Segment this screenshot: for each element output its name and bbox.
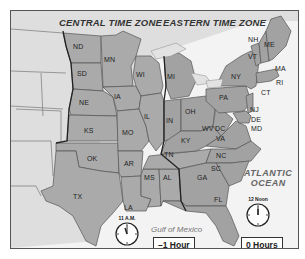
state-label-wi: WI xyxy=(136,71,145,78)
state-label-ma: MA xyxy=(275,65,286,72)
atlantic-ocean-label: ATLANTIC OCEAN xyxy=(244,168,292,189)
state-label-oh: OH xyxy=(185,108,196,115)
state-label-ne: NE xyxy=(79,99,89,106)
state-label-pa: PA xyxy=(219,94,228,101)
state-label-nd: ND xyxy=(73,43,83,50)
state-label-ks: KS xyxy=(84,127,94,134)
state-label-la: LA xyxy=(124,204,133,211)
state-label-tn: TN xyxy=(164,151,174,158)
central-clock: 11 A.M. xyxy=(114,216,140,249)
state-label-ky: KY xyxy=(181,137,191,144)
eastern-zone-title: EASTERN TIME ZONE xyxy=(163,17,266,28)
eastern-clock-label: 12 Noon xyxy=(245,197,271,202)
clock-icon xyxy=(115,222,139,246)
state-label-nh: NH xyxy=(248,36,258,43)
state-label-ms: MS xyxy=(144,174,155,181)
clock-icon xyxy=(246,203,270,227)
state-label-il: IL xyxy=(144,113,150,120)
state-label-ok: OK xyxy=(87,155,97,162)
time-zone-map: CENTRAL TIME ZONE EASTERN TIME ZONE ND S… xyxy=(10,10,299,249)
state-label-wv: WV xyxy=(202,125,213,132)
state-label-ar: AR xyxy=(124,160,134,167)
state-label-me: ME xyxy=(264,41,275,48)
state-label-in: IN xyxy=(166,117,173,124)
state-label-sc: SC xyxy=(211,165,221,172)
eastern-clock: 12 Noon xyxy=(245,197,271,231)
central-offset-box: –1 Hour xyxy=(153,237,195,249)
state-label-nj: NJ xyxy=(250,106,259,113)
state-label-mo: MO xyxy=(122,129,133,136)
state-label-md: MD xyxy=(251,125,262,132)
state-label-ga: GA xyxy=(197,174,207,181)
state-label-nc: NC xyxy=(216,152,226,159)
gulf-of-mexico-label: Gulf of Mexico xyxy=(151,225,202,234)
state-label-ri: RI xyxy=(276,79,283,86)
state-label-sd: SD xyxy=(77,70,87,77)
state-label-dc: DC xyxy=(215,125,225,132)
state-label-al: AL xyxy=(163,174,172,181)
state-label-ct: CT xyxy=(261,89,271,96)
state-label-mn: MN xyxy=(104,56,115,63)
central-clock-label: 11 A.M. xyxy=(114,216,140,221)
state-label-de: DE xyxy=(251,116,261,123)
state-label-mi: MI xyxy=(167,73,175,80)
state-label-vt: VT xyxy=(248,53,257,60)
state-label-tx: TX xyxy=(73,193,82,200)
eastern-offset-box: 0 Hours xyxy=(241,237,283,249)
state-label-ny: NY xyxy=(231,73,241,80)
state-label-va: VA xyxy=(216,135,225,142)
central-zone-title: CENTRAL TIME ZONE xyxy=(59,17,162,28)
state-label-ia: IA xyxy=(114,93,121,100)
state-label-fl: FL xyxy=(214,196,222,203)
